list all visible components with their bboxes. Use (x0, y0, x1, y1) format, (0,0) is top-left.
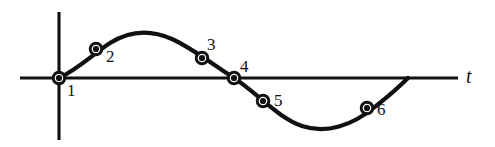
point-label-4: 4 (240, 58, 249, 75)
curve-point-marker (228, 72, 240, 84)
marker-center-dot (231, 75, 237, 81)
curve-point-marker (361, 102, 373, 114)
marker-center-dot (56, 75, 62, 81)
curve-point-marker (53, 72, 65, 84)
marker-center-dot (93, 46, 99, 52)
marker-center-dot (260, 98, 266, 104)
t-axis-label: t (466, 66, 472, 86)
point-label-6: 6 (377, 101, 386, 118)
point-label-3: 3 (207, 36, 216, 53)
curve-point-marker (90, 43, 102, 55)
point-label-1: 1 (67, 82, 76, 99)
point-label-5: 5 (274, 92, 283, 109)
figure-canvas: 123456 t (0, 0, 495, 147)
point-label-2: 2 (106, 48, 115, 65)
marker-center-dot (199, 55, 205, 61)
curve-point-marker (257, 95, 269, 107)
marker-center-dot (364, 105, 370, 111)
